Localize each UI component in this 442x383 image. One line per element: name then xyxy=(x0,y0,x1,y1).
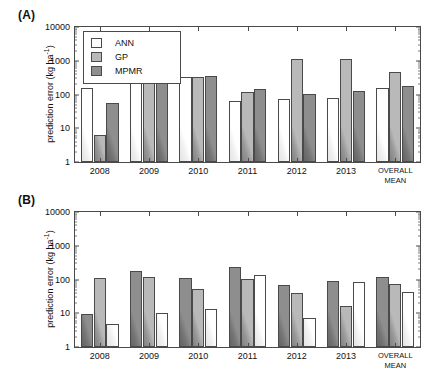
y-tick-minor xyxy=(418,330,420,331)
y-tick-mark xyxy=(416,313,420,314)
x-category-label-2012: 2012 xyxy=(272,166,321,176)
bar-face xyxy=(241,92,253,162)
bar-face xyxy=(130,81,142,162)
y-tick-minor xyxy=(75,112,77,113)
bar-gp-2010 xyxy=(192,289,204,347)
y-tick-mark xyxy=(75,128,79,129)
bar-gp-2013 xyxy=(340,306,352,347)
legend-label-gp: GP xyxy=(115,52,128,62)
y-tick-label-1: 1 xyxy=(65,342,75,352)
y-tick-label-10000: 10000 xyxy=(45,22,75,32)
legend-label-mpmr: MPMR xyxy=(115,66,143,76)
x-category-label-2009: 2009 xyxy=(124,351,173,361)
panel-b-plot-area: 110100100010000200820092010201120122013O… xyxy=(74,211,421,348)
y-tick-minor xyxy=(75,97,77,98)
bar-ann-2013 xyxy=(353,282,365,347)
bar-ann-2010 xyxy=(205,309,217,347)
y-tick-mark xyxy=(416,279,420,280)
y-tick-minor xyxy=(418,141,420,142)
x-tick-mark xyxy=(395,212,396,216)
x-category-label-2013: 2013 xyxy=(321,351,370,361)
y-tick-minor xyxy=(418,131,420,132)
y-tick-minor xyxy=(418,326,420,327)
bar-face xyxy=(291,293,303,347)
panel-b-label: (B) xyxy=(18,193,35,207)
bar-group-overall-mean xyxy=(376,212,414,347)
y-tick-minor xyxy=(418,37,420,38)
bar-face xyxy=(205,309,217,347)
bar-face xyxy=(106,103,118,162)
x-tick-mark xyxy=(100,343,101,347)
panel-b-ylabel: prediction error (kg ha-1) xyxy=(43,204,55,354)
ylabel-main: prediction error (kg ha xyxy=(45,55,55,143)
y-tick-minor xyxy=(75,28,77,29)
bar-mpmr-2008 xyxy=(81,314,93,347)
bar-face xyxy=(143,277,155,347)
y-tick-minor xyxy=(75,249,77,250)
x-tick-mark xyxy=(248,343,249,347)
y-tick-minor xyxy=(418,28,420,29)
panel-a: (A) prediction error (kg ha-1) 110100100… xyxy=(0,0,442,195)
y-tick-minor xyxy=(418,318,420,319)
y-tick-minor xyxy=(75,219,77,220)
y-tick-minor xyxy=(75,336,77,337)
bar-mpmr-2010 xyxy=(179,278,191,347)
legend-item-mpmr: MPMR xyxy=(91,64,174,78)
x-tick-mark xyxy=(248,158,249,162)
y-tick-minor xyxy=(75,99,77,100)
bar-face xyxy=(229,101,241,162)
y-tick-minor xyxy=(75,133,77,134)
bar-mpmr-2010 xyxy=(205,76,217,162)
y-tick-mark xyxy=(416,212,420,213)
y-tick-mark xyxy=(416,60,420,61)
y-tick-minor xyxy=(75,118,77,119)
bar-mpmr-2012 xyxy=(303,94,315,162)
x-tick-mark xyxy=(198,158,199,162)
bar-face xyxy=(192,77,204,162)
bar-face xyxy=(205,76,217,162)
y-tick-minor xyxy=(75,65,77,66)
bar-ann-2009 xyxy=(130,81,142,162)
y-tick-minor xyxy=(75,151,77,152)
y-tick-minor xyxy=(418,74,420,75)
ylabel-exponent: -1 xyxy=(43,48,50,54)
ylabel-main: prediction error (kg ha xyxy=(45,240,55,328)
y-tick-minor xyxy=(418,62,420,63)
y-tick-minor xyxy=(75,84,77,85)
bar-mpmr-2009 xyxy=(130,271,142,347)
bar-face xyxy=(376,277,388,347)
y-tick-mark xyxy=(75,27,79,28)
bar-face xyxy=(229,267,241,347)
y-tick-minor xyxy=(418,70,420,71)
y-tick-minor xyxy=(418,135,420,136)
bar-face xyxy=(130,271,142,347)
y-tick-minor xyxy=(75,289,77,290)
x-category-label-2010: 2010 xyxy=(174,351,223,361)
y-tick-minor xyxy=(75,104,77,105)
bar-ann-2011 xyxy=(254,275,266,347)
y-tick-minor xyxy=(418,34,420,35)
ylabel-tail: ) xyxy=(45,45,55,48)
ylabel-exponent: -1 xyxy=(43,233,50,239)
legend-item-gp: GP xyxy=(91,50,174,64)
bar-group-2012 xyxy=(278,212,316,347)
bar-face xyxy=(156,313,168,347)
y-tick-minor xyxy=(75,263,77,264)
y-tick-mark xyxy=(75,212,79,213)
bar-group-2013 xyxy=(327,212,365,347)
y-tick-minor xyxy=(75,107,77,108)
y-tick-minor xyxy=(418,101,420,102)
bar-gp-2009 xyxy=(143,277,155,347)
y-tick-minor xyxy=(418,151,420,152)
bar-ann-2012 xyxy=(303,318,315,347)
y-tick-minor xyxy=(418,213,420,214)
y-tick-mark xyxy=(75,245,79,246)
y-tick-mark xyxy=(416,27,420,28)
y-tick-minor xyxy=(418,64,420,65)
y-tick-minor xyxy=(418,297,420,298)
bar-face xyxy=(254,275,266,347)
y-tick-minor xyxy=(75,229,77,230)
bar-gp-2008 xyxy=(94,278,106,347)
y-tick-minor xyxy=(418,145,420,146)
bar-gp-overall-mean xyxy=(389,284,401,347)
